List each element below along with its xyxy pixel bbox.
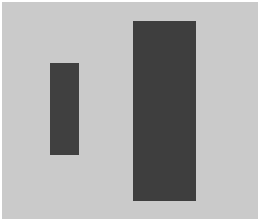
small-rectangle bbox=[50, 63, 79, 155]
background-panel bbox=[2, 2, 258, 219]
figure bbox=[0, 0, 260, 224]
large-rectangle bbox=[133, 21, 196, 201]
